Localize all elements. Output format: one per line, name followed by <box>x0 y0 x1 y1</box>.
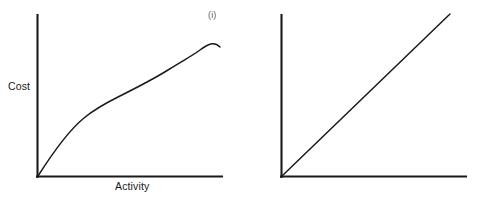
chart-panel-ii: Cost Activity (ii) <box>241 0 483 201</box>
chart-i-x-axis-label: Activity <box>115 181 149 192</box>
chart-ii-svg <box>241 0 483 201</box>
chart-panel-i: Cost Activity (i) <box>0 0 241 201</box>
figure-canvas: Cost Activity (i) Cost Activity (ii) <box>0 0 483 201</box>
chart-i-cost-curve <box>38 44 220 176</box>
chart-i-panel-tag: (i) <box>208 11 216 20</box>
chart-i-svg <box>0 0 241 201</box>
chart-ii-cost-line <box>282 14 450 176</box>
chart-i-y-axis-label: Cost <box>8 81 30 92</box>
